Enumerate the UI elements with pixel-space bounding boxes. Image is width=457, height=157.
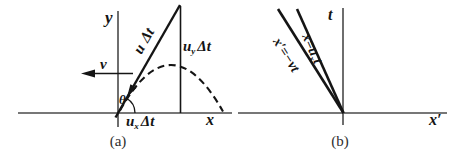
b-xprime-axis-label: x′ (429, 112, 442, 128)
a-uy-sub: y (191, 46, 195, 56)
b-t-axis-label: t (328, 7, 332, 23)
a-caption: (a) (110, 134, 127, 149)
a-v-label: v (100, 57, 107, 72)
a-ux-sub: x (134, 121, 139, 131)
physics-figure: y x v θ uΔt uyΔt uxΔt (a) t x′ x=uxt x′=… (0, 0, 457, 157)
a-uy-dt-label: uyΔt (183, 39, 211, 56)
a-theta-label: θ (119, 93, 126, 106)
a-ux-dt-label: uxΔt (126, 114, 154, 131)
a-trajectory-dashed-curve (120, 65, 223, 112)
a-theta-arc (127, 98, 136, 113)
b-caption: (b) (331, 134, 349, 149)
a-x-axis-label: x (206, 112, 214, 128)
figure-canvas (0, 0, 457, 157)
a-ux-rest: Δt (141, 113, 155, 129)
a-uy-rest: Δt (197, 38, 211, 54)
a-y-axis-label: y (105, 9, 113, 26)
a-v-arrowhead-icon (81, 70, 95, 78)
